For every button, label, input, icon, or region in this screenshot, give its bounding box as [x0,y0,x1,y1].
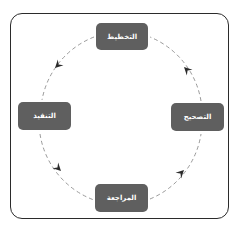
node-correction: التصحيح [171,103,224,131]
node-review: المراجعة [95,184,148,212]
connector-top-to-left [42,37,94,100]
connector-right-to-top [150,37,201,101]
node-label: المراجعة [107,194,137,202]
arrowhead-icon [53,163,64,174]
connector-bottom-to-right [150,134,201,199]
node-execution: التنفيذ [18,102,71,130]
connector-left-to-bottom [40,134,94,200]
node-label: التصحيح [184,113,212,121]
node-label: التخطيط [107,33,137,41]
node-label: التنفيذ [33,112,56,120]
node-planning: التخطيط [96,23,148,50]
arrowhead-icon [176,167,187,178]
